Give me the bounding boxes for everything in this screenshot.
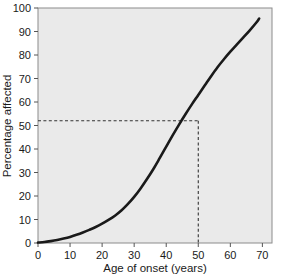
x-tick-label: 60 xyxy=(224,249,236,261)
y-tick-label: 20 xyxy=(19,190,31,202)
x-tick-label: 10 xyxy=(64,249,76,261)
chart-figure: 0102030405060708090100 010203040506070 A… xyxy=(0,0,282,279)
y-tick-label: 0 xyxy=(25,237,31,249)
line-chart: 0102030405060708090100 010203040506070 A… xyxy=(0,0,282,279)
y-tick-label: 30 xyxy=(19,167,31,179)
x-tick-label: 70 xyxy=(256,249,268,261)
y-tick-label: 50 xyxy=(19,120,31,132)
x-tick-label: 20 xyxy=(96,249,108,261)
y-tick-label: 70 xyxy=(19,73,31,85)
x-tick-label: 30 xyxy=(128,249,140,261)
x-axis-title: Age of onset (years) xyxy=(103,262,207,274)
y-tick-label: 80 xyxy=(19,49,31,61)
y-tick-label: 40 xyxy=(19,143,31,155)
y-tick-label: 100 xyxy=(13,2,31,14)
x-tick-label: 40 xyxy=(160,249,172,261)
y-tick-label: 60 xyxy=(19,96,31,108)
y-tick-label: 90 xyxy=(19,26,31,38)
y-tick-label: 10 xyxy=(19,214,31,226)
y-axis-title: Percentage affected xyxy=(1,75,13,178)
x-tick-label: 50 xyxy=(192,249,204,261)
x-tick-label: 0 xyxy=(35,249,41,261)
